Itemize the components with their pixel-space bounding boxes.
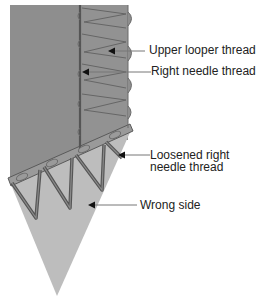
label-loosened-line2: needle thread xyxy=(150,161,223,174)
label-upper-looper-thread: Upper looper thread xyxy=(149,44,256,57)
label-right-needle-thread: Right needle thread xyxy=(151,65,256,78)
looper-edge-loops xyxy=(128,12,132,119)
label-wrong-side: Wrong side xyxy=(140,199,200,212)
